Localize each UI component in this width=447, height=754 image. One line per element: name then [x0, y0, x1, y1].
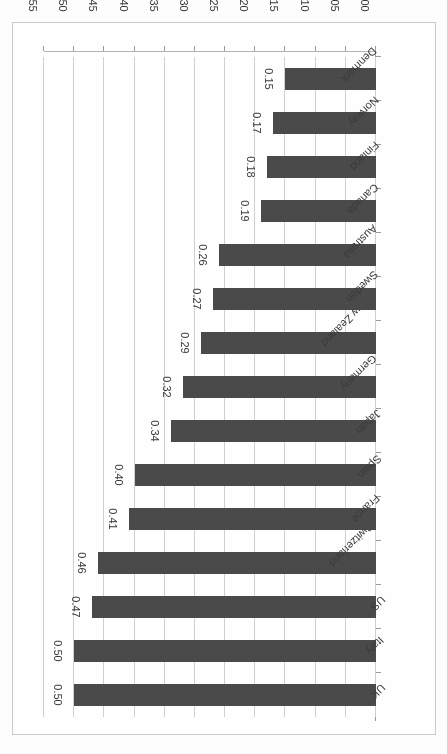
axis-tick	[73, 46, 74, 51]
bar-value-text: 0.17	[247, 112, 269, 133]
bar-value-text: 0.29	[174, 332, 196, 353]
axis-tick	[315, 46, 316, 51]
bar-row[interactable]: 0.17	[44, 101, 376, 145]
category-tick	[376, 628, 381, 629]
bar-row[interactable]: 0.18	[44, 145, 376, 189]
bar-value-text: 0.26	[192, 244, 214, 265]
category-tick	[376, 364, 381, 365]
axis-tick	[345, 46, 346, 51]
bar-row[interactable]: 0.34	[44, 409, 376, 453]
category-axis	[44, 51, 376, 52]
bar-value-label: 0.19	[235, 200, 256, 222]
category-tick	[376, 452, 381, 453]
bar-row[interactable]: 0.27	[44, 277, 376, 321]
axis-tick-label-text: 0.15	[269, 0, 281, 12]
bar-value-text: 0.41	[102, 508, 124, 529]
bar-value-text: 0.15	[259, 68, 281, 89]
axis-tick-label-text: 0.40	[118, 0, 130, 12]
bar[interactable]	[74, 640, 376, 662]
axis-tick-label-text: 0.10	[299, 0, 311, 12]
scanned-chart-page: 0.000.050.100.150.200.250.300.350.400.45…	[0, 0, 447, 754]
bar-value-label: 0.18	[241, 156, 262, 178]
axis-tick-label-text: 0.35	[148, 0, 160, 12]
axis-tick-label-text: 0.55	[27, 0, 39, 12]
bar-chart: 0.000.050.100.150.200.250.300.350.400.45…	[12, 22, 436, 735]
bar-row[interactable]: 0.50	[44, 673, 376, 717]
bar-row[interactable]: 0.19	[44, 189, 376, 233]
bar-value-text: 0.32	[156, 376, 178, 397]
bar-value-label: 0.29	[175, 332, 196, 354]
bar-value-label: 0.17	[247, 112, 268, 134]
category-tick	[376, 320, 381, 321]
bar[interactable]	[171, 420, 376, 442]
category-tick	[376, 540, 381, 541]
bar-row[interactable]: 0.41	[44, 497, 376, 541]
bar-row[interactable]: 0.40	[44, 453, 376, 497]
chart-inner: 0.000.050.100.150.200.250.300.350.400.45…	[12, 22, 436, 735]
bar-value-text: 0.46	[72, 552, 94, 573]
bar-value-text: 0.34	[144, 420, 166, 441]
bar-value-label: 0.50	[48, 640, 69, 662]
bar-value-label: 0.26	[193, 244, 214, 266]
axis-tick	[284, 46, 285, 51]
axis-tick-label-text: 0.50	[57, 0, 69, 12]
bar-value-label: 0.46	[72, 552, 93, 574]
axis-tick	[43, 46, 44, 51]
bar-value-label: 0.15	[259, 68, 280, 90]
bar-row[interactable]: 0.50	[44, 629, 376, 673]
bar[interactable]	[285, 68, 376, 90]
bar-value-text: 0.18	[241, 156, 263, 177]
category-tick	[376, 584, 381, 585]
bar[interactable]	[74, 684, 376, 706]
bar[interactable]	[201, 332, 376, 354]
axis-tick	[103, 46, 104, 51]
bar-row[interactable]: 0.26	[44, 233, 376, 277]
axis-tick	[224, 46, 225, 51]
bar-value-label: 0.34	[144, 420, 165, 442]
axis-tick	[194, 46, 195, 51]
axis-tick-label-text: 0.25	[208, 0, 220, 12]
axis-tick	[164, 46, 165, 51]
bar-value-label: 0.41	[102, 508, 123, 530]
bar-value-label: 0.50	[48, 684, 69, 706]
bar-value-text: 0.27	[186, 288, 208, 309]
plot-area: 0.000.050.100.150.200.250.300.350.400.45…	[44, 57, 376, 717]
bar-value-text: 0.19	[235, 200, 257, 221]
axis-tick-label-text: 0.30	[178, 0, 190, 12]
bar-value-label: 0.40	[108, 464, 129, 486]
bar-value-text: 0.50	[47, 684, 69, 705]
bar-value-label: 0.27	[187, 288, 208, 310]
bar-row[interactable]: 0.32	[44, 365, 376, 409]
bar[interactable]	[135, 464, 376, 486]
bar-value-text: 0.50	[47, 640, 69, 661]
bar-value-label: 0.47	[66, 596, 87, 618]
bar-row[interactable]: 0.47	[44, 585, 376, 629]
axis-tick-label-text: 0.45	[88, 0, 100, 12]
axis-tick	[254, 46, 255, 51]
axis-tick-label-text: 0.20	[239, 0, 251, 12]
bar[interactable]	[129, 508, 376, 530]
bar-value-text: 0.40	[108, 464, 130, 485]
bar[interactable]	[92, 596, 376, 618]
bar-value-label: 0.32	[156, 376, 177, 398]
axis-tick-label-text: 0.05	[329, 0, 341, 12]
bar-row[interactable]: 0.46	[44, 541, 376, 585]
axis-tick-label-text: 0.00	[359, 0, 371, 12]
axis-tick	[134, 46, 135, 51]
category-tick	[376, 56, 381, 57]
category-tick	[376, 672, 381, 673]
bar-row[interactable]: 0.15	[44, 57, 376, 101]
bar-value-text: 0.47	[66, 596, 88, 617]
